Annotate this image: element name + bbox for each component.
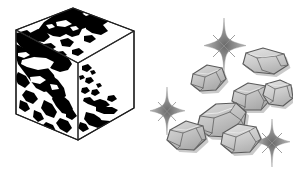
illustration-svg <box>0 0 293 172</box>
illustration-canvas: World map cube and gemstone cluster illu… <box>0 0 293 172</box>
